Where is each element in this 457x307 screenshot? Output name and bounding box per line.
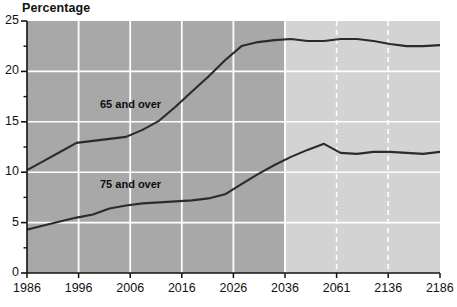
ytick-label-0: 0 <box>0 265 19 279</box>
xtick-label-2136: 2136 <box>362 281 414 295</box>
ytick-label-10: 10 <box>0 164 19 178</box>
xtick-label-2006: 2006 <box>104 281 156 295</box>
series-label-75-and-over: 75 and over <box>100 178 161 190</box>
ytick-label-25: 25 <box>0 13 19 27</box>
xtick-label-2016: 2016 <box>156 281 208 295</box>
plot-background-historical <box>27 21 285 273</box>
percentage-line-chart: Percentage <box>0 0 457 307</box>
ytick-label-5: 5 <box>0 215 19 229</box>
ytick-label-15: 15 <box>0 114 19 128</box>
xtick-label-2036: 2036 <box>259 281 311 295</box>
plot-background-projected <box>285 21 440 273</box>
series-label-65-and-over: 65 and over <box>100 98 161 110</box>
xtick-label-1986: 1986 <box>1 281 53 295</box>
xtick-label-2061: 2061 <box>311 281 363 295</box>
xtick-label-2186: 2186 <box>414 281 457 295</box>
xtick-label-2026: 2026 <box>207 281 259 295</box>
plot-canvas <box>0 0 457 307</box>
xtick-label-1996: 1996 <box>53 281 105 295</box>
ytick-label-20: 20 <box>0 63 19 77</box>
